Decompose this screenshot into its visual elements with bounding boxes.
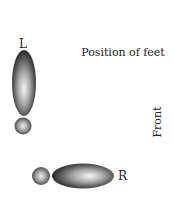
left-foot: L [12,37,36,135]
front-direction-label: Front [151,106,164,138]
right-foot-sole-icon [52,164,114,189]
left-foot-heel-icon [15,118,32,135]
right-foot-label: R [118,169,128,183]
feet-position-diagram: L R Position of feet Front [0,0,174,198]
left-foot-sole-icon [12,50,36,116]
diagram-title: Position of feet [81,46,165,59]
right-foot-heel-icon [32,167,50,185]
left-foot-label: L [19,37,27,51]
right-foot: R [32,164,128,189]
